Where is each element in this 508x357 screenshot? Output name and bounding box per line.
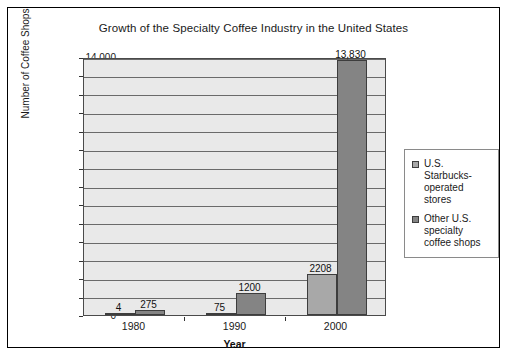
- x-tick-mark: [184, 317, 185, 321]
- legend-item[interactable]: U.S. Starbucks-operated stores: [412, 158, 492, 206]
- bar-value-label: 1200: [220, 282, 280, 293]
- bar: [307, 274, 337, 315]
- chart-frame: Growth of the Specialty Coffee Industry …: [7, 7, 500, 348]
- bar: [337, 60, 367, 315]
- legend-label: U.S. Starbucks-operated stores: [424, 158, 492, 206]
- bar-value-label: 275: [119, 299, 179, 310]
- x-tick-mark: [285, 317, 286, 321]
- y-axis-title: Number of Coffee Shops: [20, 0, 31, 144]
- y-tick-mark: [79, 316, 83, 317]
- x-tick-label: 1990: [195, 320, 275, 332]
- legend-item[interactable]: Other U.S. specialty coffee shops: [412, 213, 492, 249]
- legend-swatch-icon: [412, 216, 419, 223]
- bar-value-label: 2208: [291, 263, 351, 274]
- legend-swatch-icon: [412, 161, 419, 168]
- legend-label: Other U.S. specialty coffee shops: [424, 213, 492, 249]
- bar: [206, 313, 236, 315]
- bar: [105, 313, 135, 315]
- x-axis-title: Year: [83, 338, 386, 350]
- plot-area: [83, 58, 386, 316]
- chart-title: Growth of the Specialty Coffee Industry …: [8, 22, 499, 34]
- x-tick-label: 2000: [296, 320, 376, 332]
- bar-value-label: 75: [190, 302, 250, 313]
- x-tick-label: 1980: [94, 320, 174, 332]
- chart-legend: U.S. Starbucks-operated storesOther U.S.…: [404, 149, 499, 258]
- bar-value-label: 13,830: [321, 49, 381, 60]
